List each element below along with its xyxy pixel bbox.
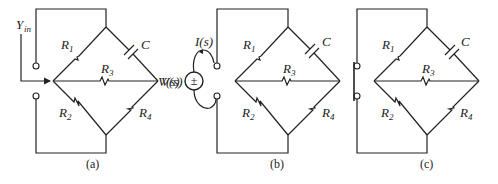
resistor-r4: [427, 81, 479, 135]
bridge-circuit-diagram: Y in R 1 C R 3 V(s) R 2 R 4 (a) ± I(s) V: [0, 0, 498, 184]
bottom-frame-wire: [357, 99, 427, 153]
label-c: C: [141, 37, 150, 52]
resistor-r1: [374, 27, 427, 81]
top-frame-wire: [36, 9, 106, 63]
resistor-r3: [235, 77, 340, 85]
label-r2: R: [241, 105, 250, 120]
resistor-r1: [53, 27, 106, 81]
svg-text:3: 3: [429, 68, 435, 78]
top-frame-wire: [357, 9, 427, 63]
label-r3: R: [421, 61, 430, 76]
terminal-top: [214, 63, 220, 69]
svg-text:2: 2: [67, 112, 72, 122]
source-bottom-wire: [194, 90, 216, 108]
label-current: I(s): [194, 34, 213, 49]
panel-b: ± I(s) V(s) R 1 C R 3 R 2 R 4 (b): [161, 9, 340, 171]
label-c: C: [461, 34, 470, 49]
label-c: C: [322, 34, 331, 49]
terminal-top: [33, 63, 39, 69]
resistor-r1: [235, 27, 288, 81]
caption-b: (b): [270, 157, 284, 171]
terminal-bottom: [214, 93, 220, 99]
source-top-wire: [193, 50, 214, 72]
svg-text:3: 3: [290, 68, 296, 78]
label-r4: R: [138, 105, 147, 120]
label-source: V(s): [161, 74, 183, 89]
top-frame-wire: [217, 9, 288, 63]
resistor-r3: [374, 77, 479, 85]
svg-text:2: 2: [389, 112, 394, 122]
resistor-r3: [53, 77, 158, 85]
bottom-frame-wire: [217, 99, 288, 153]
label-r1: R: [60, 37, 69, 52]
svg-text:4: 4: [330, 112, 335, 122]
label-r1: R: [242, 37, 251, 52]
resistor-r4: [288, 81, 340, 135]
source-sign: ±: [191, 74, 198, 88]
label-r3: R: [100, 61, 109, 76]
svg-text:4: 4: [468, 112, 473, 122]
svg-text:in: in: [24, 24, 32, 34]
label-r3: R: [282, 61, 291, 76]
label-r1: R: [381, 37, 390, 52]
svg-text:3: 3: [108, 68, 114, 78]
resistor-r4: [106, 81, 158, 135]
caption-a: (a): [86, 157, 99, 171]
svg-text:1: 1: [69, 44, 74, 54]
label-r4: R: [321, 105, 330, 120]
caption-c: (c): [420, 157, 433, 171]
terminal-bottom: [33, 93, 39, 99]
svg-text:2: 2: [250, 112, 255, 122]
svg-text:1: 1: [390, 44, 395, 54]
bottom-frame-wire: [36, 99, 106, 153]
svg-text:4: 4: [147, 112, 152, 122]
label-r4: R: [459, 105, 468, 120]
terminal-bottom: [354, 93, 360, 99]
panel-c: R 1 C R 3 R 2 R 4 (c): [354, 9, 479, 171]
label-r2: R: [380, 105, 389, 120]
label-r2: R: [58, 105, 67, 120]
panel-a: Y in R 1 C R 3 V(s) R 2 R 4 (a): [16, 9, 180, 171]
svg-text:1: 1: [251, 44, 256, 54]
terminal-top: [354, 63, 360, 69]
